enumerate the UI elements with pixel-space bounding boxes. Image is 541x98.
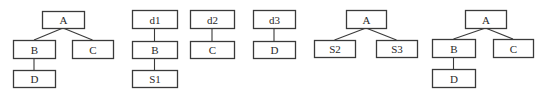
node-s2: S2 bbox=[315, 41, 356, 58]
edge-A-C bbox=[486, 28, 514, 39]
node-d1: d1 bbox=[133, 11, 178, 29]
node-b: B bbox=[433, 40, 476, 58]
node-label: S2 bbox=[329, 43, 341, 55]
tree-edges-5 bbox=[335, 28, 397, 40]
node-label: B bbox=[151, 44, 158, 56]
node-label: C bbox=[510, 43, 517, 55]
edge-A-C bbox=[63, 28, 93, 40]
node-d: D bbox=[433, 70, 476, 88]
node-s3: S3 bbox=[377, 41, 418, 58]
node-d: D bbox=[14, 71, 56, 88]
node-a: A bbox=[347, 11, 387, 29]
tree-diagram: ABCDd1BS1d2Cd3DAS2S3ABCD bbox=[0, 0, 541, 98]
node-label: d3 bbox=[269, 14, 281, 26]
node-b: B bbox=[133, 42, 178, 59]
node-label: A bbox=[60, 14, 68, 26]
node-c: C bbox=[191, 42, 235, 59]
edge-A-S3 bbox=[366, 28, 397, 40]
tree-2: d1BS1 bbox=[133, 11, 178, 88]
node-label: A bbox=[482, 14, 490, 26]
node-a: A bbox=[466, 11, 507, 29]
node-d2: d2 bbox=[191, 11, 235, 29]
node-label: B bbox=[450, 43, 457, 55]
node-d3: d3 bbox=[254, 11, 296, 29]
node-label: d2 bbox=[207, 14, 218, 26]
nodes-layer: ABCDd1BS1d2Cd3DAS2S3ABCD bbox=[14, 11, 534, 88]
node-label: S1 bbox=[149, 73, 161, 85]
tree-6: ABCD bbox=[433, 11, 534, 88]
node-label: D bbox=[31, 73, 39, 85]
edge-A-S2 bbox=[335, 28, 367, 40]
node-s1: S1 bbox=[133, 71, 178, 88]
node-label: D bbox=[271, 44, 279, 56]
node-label: C bbox=[209, 44, 216, 56]
edge-A-B bbox=[34, 28, 63, 40]
node-label: d1 bbox=[150, 14, 161, 26]
tree-1: ABCD bbox=[14, 12, 114, 88]
node-c: C bbox=[73, 41, 114, 59]
node-label: B bbox=[31, 44, 38, 56]
node-label: A bbox=[363, 14, 371, 26]
node-d: D bbox=[254, 42, 296, 59]
node-label: C bbox=[89, 44, 96, 56]
tree-5: AS2S3 bbox=[315, 11, 418, 58]
node-a: A bbox=[43, 12, 85, 29]
node-b: B bbox=[14, 41, 56, 59]
edge-A-B bbox=[454, 28, 486, 39]
node-label: S3 bbox=[391, 43, 403, 55]
node-c: C bbox=[494, 40, 534, 58]
node-label: D bbox=[450, 73, 458, 85]
